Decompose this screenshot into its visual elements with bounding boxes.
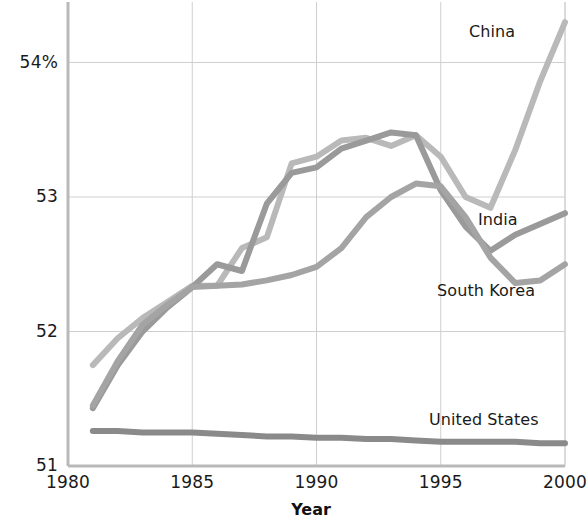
x-tick-label: 1980 [46, 472, 90, 492]
x-tick-label: 1990 [294, 472, 338, 492]
x-tick-label: 1985 [170, 472, 214, 492]
series-label-china: China [469, 22, 515, 41]
gridlines [68, 2, 565, 466]
y-tick-label: 53 [36, 186, 58, 206]
x-tick-label: 2000 [543, 472, 587, 492]
x-axis-title: Year [291, 500, 331, 519]
series-line-united-states [93, 431, 565, 443]
y-tick-label: 52 [36, 321, 58, 341]
series-label-united-states: United States [429, 410, 539, 429]
y-tick-label: 54% [20, 52, 58, 72]
series-label-south-korea: South Korea [437, 281, 535, 300]
series-line-india [93, 132, 565, 408]
series-label-india: India [478, 210, 518, 229]
x-tick-label: 1995 [419, 472, 463, 492]
data-series-group [93, 22, 565, 443]
